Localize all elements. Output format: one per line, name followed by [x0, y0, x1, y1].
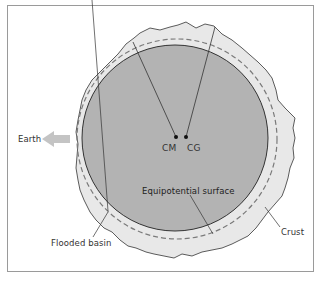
flooded-basin-label: Flooded basin — [51, 238, 111, 248]
cg-point — [184, 135, 188, 139]
moon-cross-section-diagram — [0, 0, 321, 281]
left-arrow-icon — [42, 131, 70, 147]
equipotential-surface-label: Equipotential surface — [142, 186, 235, 196]
cg-label: CG — [187, 143, 200, 153]
earth-label: Earth — [18, 134, 41, 144]
crust-leader — [265, 207, 280, 227]
cm-point — [174, 135, 178, 139]
cm-label: CM — [162, 143, 176, 153]
crust-label: Crust — [281, 227, 304, 237]
